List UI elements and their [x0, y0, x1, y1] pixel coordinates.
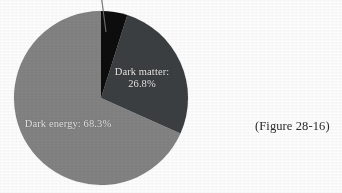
- slice-label-dark-energy: Dark energy: 68.3%: [12, 118, 124, 130]
- figure-container: Dark matter: 26.8% Dark energy: 68.3% (F…: [0, 0, 342, 193]
- slice-label-dark-matter: Dark matter: 26.8%: [104, 66, 180, 90]
- figure-caption: (Figure 28-16): [255, 119, 330, 134]
- slice-label-dark-matter-line2: 26.8%: [104, 78, 180, 90]
- pie-chart: [0, 0, 342, 193]
- slice-label-dark-matter-line1: Dark matter:: [104, 66, 180, 78]
